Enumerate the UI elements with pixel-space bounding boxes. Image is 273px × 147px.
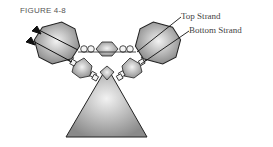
top-bicone [96,42,118,56]
beadwork-diagram [0,0,273,147]
left-octagon-bead [32,19,82,67]
